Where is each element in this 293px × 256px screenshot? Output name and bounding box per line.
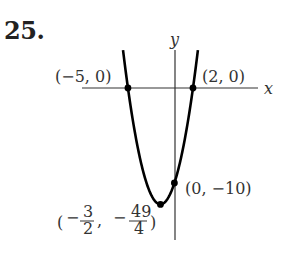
svg-text:): ) bbox=[150, 213, 156, 232]
vertex-x-denominator: 2 bbox=[83, 219, 93, 238]
vertex-y-denominator: 4 bbox=[134, 219, 144, 238]
y-axis-label: y bbox=[169, 30, 180, 49]
svg-text:,: , bbox=[97, 211, 102, 230]
point-marker bbox=[157, 201, 164, 208]
svg-text:−: − bbox=[113, 208, 126, 227]
point-marker bbox=[171, 180, 178, 187]
point-marker bbox=[125, 85, 132, 92]
vertex-label: ( − 3 2 , − 49 4 ) bbox=[57, 202, 156, 238]
x-axis-label: x bbox=[264, 79, 273, 98]
point-marker bbox=[190, 85, 197, 92]
y-intercept-label: (0, −10) bbox=[185, 179, 252, 198]
parabola-graph: x y (−5, 0) (2, 0) (0, −10) ( − 3 2 , − … bbox=[0, 0, 293, 256]
svg-text:(: ( bbox=[57, 213, 63, 232]
svg-text:−: − bbox=[66, 208, 79, 227]
x-intercept-right-label: (2, 0) bbox=[202, 67, 245, 86]
x-intercept-left-label: (−5, 0) bbox=[55, 67, 111, 86]
